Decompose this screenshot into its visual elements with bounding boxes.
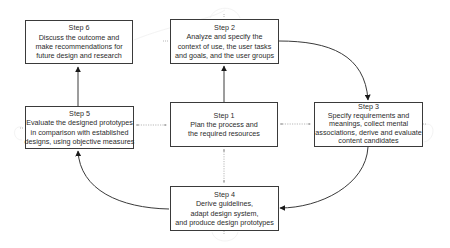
process-diagram: Step 6 Discuss the outcome and make reco…: [0, 0, 450, 248]
step-6-line-3: future design and research: [36, 51, 122, 60]
step-5-line-3: designs, using objective measures: [25, 137, 135, 146]
step-4-box: Step 4 Derive guidelines, adapt design s…: [170, 186, 279, 231]
arrow-step2-to-step3: [279, 41, 368, 100]
step-2-title: Step 2: [214, 23, 235, 32]
step-3-line-4: content candidates: [338, 137, 398, 146]
step-6-line-1: Discuss the outcome and: [39, 33, 120, 42]
step-1-line-2: the required resources: [188, 129, 260, 138]
step-5-line-1: Evaluate the designed prototypes: [26, 118, 133, 127]
step-2-line-1: Analyze and specify the: [187, 32, 263, 41]
step-6-line-2: make recommendations for: [35, 42, 122, 51]
step-3-box: Step 3 Specify requirements and meanings…: [314, 102, 423, 147]
step-2-line-2: context of use, the user tasks: [178, 42, 272, 51]
step-1-title: Step 1: [214, 111, 235, 120]
step-5-title: Step 5: [69, 109, 90, 118]
step-4-title: Step 4: [214, 190, 235, 199]
arrow-step3-to-step4: [280, 147, 368, 208]
step-6-box: Step 6 Discuss the outcome and make reco…: [25, 20, 133, 64]
step-2-line-3: and goals, and the user groups: [175, 51, 274, 60]
step-4-line-1: Derive guidelines,: [196, 199, 253, 208]
step-4-line-3: and produce design prototypes: [175, 218, 274, 227]
step-1-line-1: Plan the process and: [190, 120, 258, 129]
arrow-step4-to-step5: [78, 151, 169, 209]
step-5-box: Step 5 Evaluate the designed prototypes …: [25, 106, 134, 149]
step-6-title: Step 6: [69, 23, 90, 32]
step-4-line-2: adapt design system,: [191, 209, 259, 218]
step-2-box: Step 2 Analyze and specify the context o…: [170, 19, 279, 64]
step-5-line-2: in comparison with established: [31, 128, 129, 137]
step-1-box: Step 1 Plan the process and the required…: [170, 102, 278, 147]
